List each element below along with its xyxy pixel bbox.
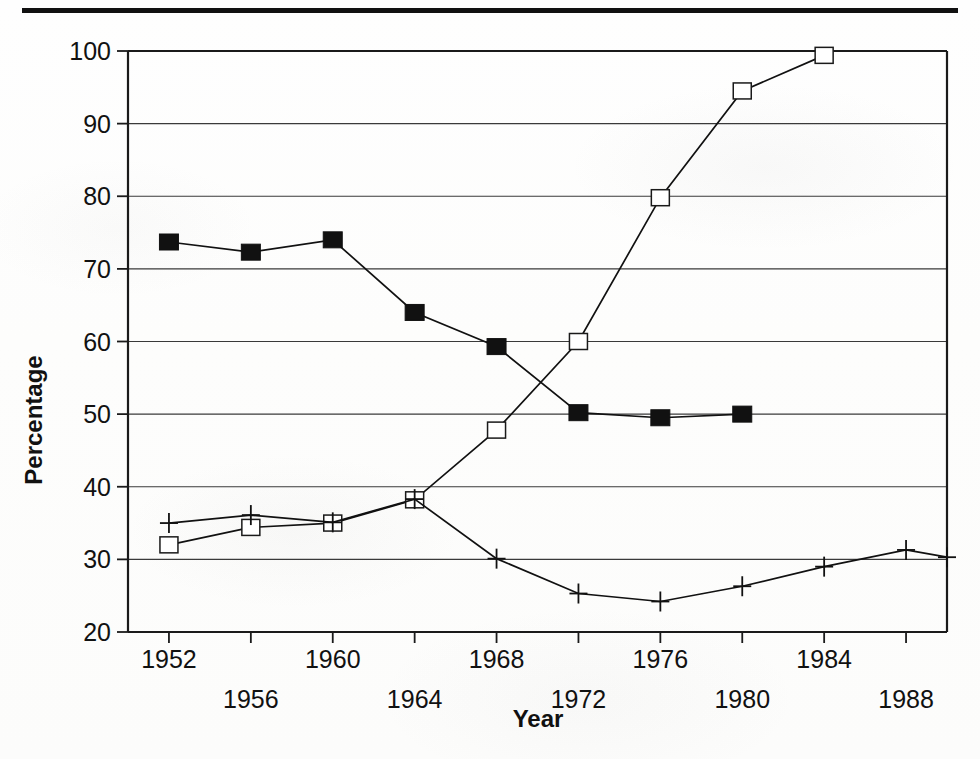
data-point-plus	[897, 540, 915, 560]
y-tick-label: 70	[83, 255, 111, 283]
x-tick-label: 1968	[469, 645, 525, 673]
data-point-filled-square	[569, 405, 588, 421]
chart-canvas: 2030405060708090100 19521956196019641968…	[0, 0, 980, 759]
x-tick-label: 1976	[633, 645, 689, 673]
x-tick-label: 1964	[387, 685, 443, 713]
line-chart-figure: 2030405060708090100 19521956196019641968…	[0, 0, 980, 759]
x-tick-label: 1960	[305, 645, 361, 673]
data-point-plus	[160, 513, 178, 533]
series-filled-square	[159, 232, 751, 426]
x-tick-label: 1984	[796, 645, 852, 673]
series-plus-line	[169, 499, 947, 601]
data-point-open-square	[160, 537, 178, 553]
data-point-open-square	[733, 83, 751, 99]
data-point-open-square	[569, 334, 587, 350]
y-tick-label: 30	[83, 545, 111, 573]
y-tick-label: 20	[83, 618, 111, 646]
data-point-plus	[733, 576, 751, 596]
y-tick-label: 60	[83, 328, 111, 356]
data-point-open-square	[488, 422, 506, 438]
y-tick-label: 40	[83, 473, 111, 501]
x-axis-tick-labels: 1952195619601964196819721976198019841988	[141, 645, 934, 713]
x-axis-tick-marks	[169, 632, 906, 643]
series-open-square-line	[169, 55, 824, 544]
data-point-filled-square	[323, 232, 342, 248]
y-tick-label: 50	[83, 400, 111, 428]
x-tick-label: 1980	[714, 685, 770, 713]
x-tick-label: 1956	[223, 685, 279, 713]
data-point-open-square	[651, 190, 669, 206]
data-point-filled-square	[651, 410, 670, 426]
y-axis-tick-labels: 2030405060708090100	[69, 37, 111, 646]
data-point-plus	[651, 591, 669, 611]
x-axis-title: Year	[513, 705, 564, 732]
series-filled-square-line	[169, 240, 742, 418]
x-tick-label: 1988	[878, 685, 934, 713]
y-tick-label: 90	[83, 110, 111, 138]
series-plus	[160, 489, 956, 611]
data-point-filled-square	[487, 339, 506, 355]
x-tick-label: 1952	[141, 645, 197, 673]
data-point-filled-square	[405, 304, 424, 320]
data-point-filled-square	[241, 244, 260, 260]
data-point-filled-square	[733, 406, 752, 422]
y-tick-label: 100	[69, 37, 111, 65]
y-axis-title: Percentage	[20, 355, 47, 484]
y-tick-label: 80	[83, 182, 111, 210]
data-point-filled-square	[159, 234, 178, 250]
data-point-plus	[569, 584, 587, 604]
data-point-plus	[938, 547, 956, 567]
data-point-plus	[488, 549, 506, 569]
data-point-open-square	[815, 47, 833, 63]
data-series-group	[159, 47, 956, 611]
y-axis-tick-marks	[117, 51, 128, 632]
horizontal-gridlines	[128, 51, 947, 559]
